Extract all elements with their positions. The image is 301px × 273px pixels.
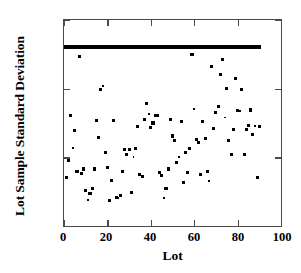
x-tick-0	[64, 220, 65, 226]
x-tick-label-80: 80	[218, 230, 258, 245]
data-point	[234, 77, 237, 80]
data-point	[84, 189, 87, 192]
data-point	[201, 120, 204, 123]
data-point	[87, 199, 89, 201]
data-point	[88, 192, 91, 195]
data-point	[108, 199, 111, 202]
data-point	[95, 119, 98, 122]
x-tick-label-60: 60	[174, 230, 214, 245]
data-point	[67, 159, 70, 162]
data-point	[99, 88, 102, 91]
data-point	[230, 153, 233, 156]
data-point	[178, 156, 180, 158]
data-point	[217, 105, 220, 108]
data-point	[145, 102, 148, 105]
data-point	[133, 156, 135, 158]
x-tick-60	[194, 220, 195, 226]
data-point	[225, 87, 228, 90]
data-point	[78, 55, 81, 58]
data-point	[224, 117, 226, 119]
x-tick-top-60	[194, 20, 195, 26]
y-axis-title: Lot Sample Standard Deviation	[12, 14, 28, 238]
data-point	[180, 120, 183, 123]
data-point	[188, 147, 191, 150]
data-point	[221, 58, 224, 61]
data-point	[110, 179, 113, 182]
data-point	[249, 108, 252, 111]
data-point	[112, 119, 115, 122]
x-tick-label-40: 40	[130, 230, 170, 245]
data-point	[208, 180, 210, 182]
data-point	[91, 187, 94, 190]
x-tick-label-0: 0	[43, 230, 83, 245]
data-point	[206, 170, 209, 173]
x-tick-top-80	[238, 20, 239, 26]
data-point	[123, 148, 126, 151]
data-point	[214, 111, 217, 114]
data-point	[239, 110, 241, 112]
data-point	[212, 127, 215, 130]
x-tick-20	[107, 220, 108, 226]
data-point	[193, 108, 195, 110]
data-point	[258, 125, 261, 128]
data-point	[156, 114, 159, 117]
data-point	[254, 125, 256, 127]
data-point	[73, 129, 76, 132]
data-point	[106, 166, 109, 169]
data-point	[93, 167, 96, 170]
data-point	[219, 73, 222, 76]
data-point	[167, 167, 170, 170]
plot-frame	[63, 19, 282, 227]
data-point	[128, 148, 131, 151]
data-point	[134, 147, 137, 150]
data-point	[175, 161, 178, 164]
data-point	[197, 141, 200, 144]
data-point	[245, 128, 248, 131]
data-point	[204, 137, 207, 140]
x-tick-80	[238, 220, 239, 226]
data-point	[251, 133, 254, 136]
x-tick-label-100: 100	[262, 230, 301, 245]
data-point	[184, 151, 187, 154]
upper-control-limit	[64, 45, 261, 49]
data-point	[227, 139, 230, 142]
data-point	[80, 172, 83, 175]
data-point	[65, 176, 68, 179]
data-point	[232, 128, 235, 131]
data-point	[75, 170, 78, 173]
x-tick-40	[151, 220, 152, 226]
data-point	[125, 153, 128, 156]
data-point	[210, 65, 213, 68]
plot-area	[64, 20, 281, 226]
data-point	[130, 191, 133, 194]
data-point	[117, 197, 119, 199]
y-tick-right-0.1	[275, 157, 281, 158]
data-point	[164, 187, 167, 190]
scatter-chart-figure: Lot Sample Standard Deviation 0.3 0.2 0.…	[0, 0, 301, 273]
data-point	[97, 136, 100, 139]
data-point	[256, 176, 259, 179]
data-point	[121, 170, 124, 173]
data-point	[160, 174, 163, 177]
data-point	[69, 114, 72, 117]
data-point	[240, 88, 243, 91]
data-point	[169, 118, 172, 121]
data-point	[190, 53, 193, 56]
y-tick-right-0.2	[275, 89, 281, 90]
data-point	[119, 194, 122, 197]
data-point	[171, 134, 174, 137]
data-point	[199, 173, 202, 176]
data-point	[148, 113, 150, 115]
data-point	[104, 151, 107, 154]
x-tick-top-40	[151, 20, 152, 26]
x-tick-top-20	[107, 20, 108, 26]
data-point	[182, 181, 185, 184]
data-point	[143, 118, 146, 121]
data-point	[186, 171, 189, 174]
x-axis-title: Lot	[63, 248, 282, 264]
data-point	[102, 85, 104, 87]
data-point	[82, 167, 85, 170]
data-point	[151, 121, 154, 124]
data-point	[173, 139, 176, 142]
data-point	[149, 126, 152, 129]
